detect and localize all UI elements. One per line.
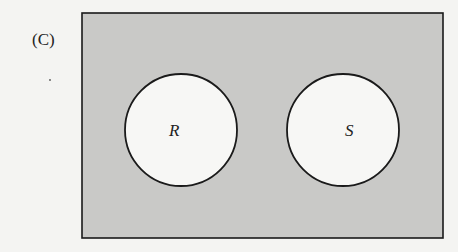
venn-diagram: R S xyxy=(0,0,458,252)
stray-dot xyxy=(49,79,51,81)
set-s-label: S xyxy=(345,121,354,140)
set-r-label: R xyxy=(168,121,180,140)
